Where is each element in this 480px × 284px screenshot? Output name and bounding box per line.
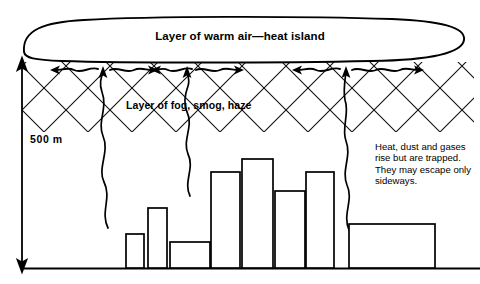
building-1 [126,234,144,268]
building-5 [242,159,273,268]
building-3 [170,242,210,268]
building-6 [275,191,305,268]
diagram-canvas: Layer of warm air—heat island Layer of f… [0,0,480,284]
building-4 [211,172,240,268]
building-7 [306,172,334,268]
building-2 [148,208,167,268]
trapped-pollution-note: Heat, dust and gases rise but are trappe… [375,141,475,187]
warm-air-label: Layer of warm air—heat island [0,30,480,42]
building-8 [349,224,435,268]
scale-label: 500 m [30,133,63,145]
haze-layer-label: Layer of fog, smog, haze [126,99,252,111]
